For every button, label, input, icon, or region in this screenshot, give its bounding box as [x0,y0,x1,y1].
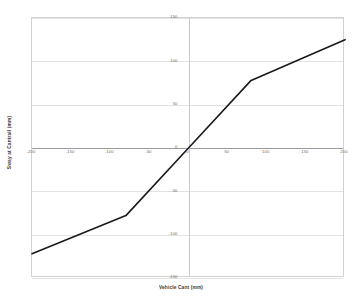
x-axis-tick-label: -50 [138,149,158,154]
x-axis-tick-label: 50 [217,149,237,154]
y-axis-tick-label: -50 [162,188,178,193]
y-axis-tick-label: 0 [162,144,178,149]
y-axis-tick-label: 50 [162,101,178,106]
y-axis-tick-label: 150 [162,14,178,19]
chart-figure: Sway at Cantrail (mm) 150100500-50-100-1… [0,0,362,304]
x-axis-title: Vehicle Cant (mm) [0,285,362,290]
x-axis-tick-label: -200 [21,149,41,154]
y-axis-title: Sway at Cantrail (mm) [7,98,12,188]
y-axis-tick-label: 100 [162,58,178,63]
gridline-horizontal [32,278,343,279]
x-axis-tick-label: 200 [334,149,354,154]
x-axis-tick-label: -100 [99,149,119,154]
x-axis-tick-label: -150 [60,149,80,154]
x-axis-tick-label: 150 [295,149,315,154]
x-axis-tick-label: 0 [178,149,198,154]
y-axis-tick-label: -100 [162,231,178,236]
plot-area [31,17,344,277]
x-axis-tick-label: 100 [256,149,276,154]
y-axis-tick-label: -150 [162,274,178,279]
